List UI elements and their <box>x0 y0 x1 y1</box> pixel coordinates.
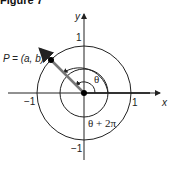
x-tick-1: 1 <box>132 97 138 108</box>
x-axis-label: x <box>161 97 168 108</box>
origin-point <box>81 90 87 96</box>
point-p-label: P = (a, b) <box>3 53 44 64</box>
theta-plus-2pi-label: θ + 2π <box>88 117 116 129</box>
theta-label: θ <box>94 73 99 85</box>
y-tick-neg1: −1 <box>71 143 83 154</box>
x-tick-neg1: −1 <box>24 96 36 107</box>
terminal-ray <box>40 49 84 93</box>
y-tick-1: 1 <box>76 32 82 43</box>
point-p <box>48 57 54 63</box>
y-axis-label: y <box>74 11 81 22</box>
unit-circle-diagram: y x 1 −1 −1 1 P = (a, b) θ θ + 2π <box>0 0 172 169</box>
